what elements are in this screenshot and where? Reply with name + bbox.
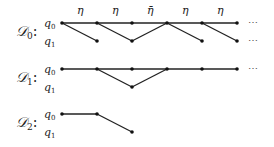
d2-label: 𝒟2: <box>16 114 37 132</box>
d0-ellipsis-q0: ⋯ <box>248 17 258 28</box>
d2-nodes <box>60 112 134 134</box>
d2-edges <box>62 114 132 132</box>
d2-row-q0: q0 <box>44 108 56 122</box>
d0-edge-label-4: η <box>182 4 189 17</box>
d0-row-q0: q0 <box>44 17 56 31</box>
d1-row-q1: q1 <box>44 81 56 95</box>
d0-row-q1: q1 <box>44 35 56 49</box>
d0-ellipsis-q1: ⋯ <box>248 35 258 46</box>
d0-edge-label-3: η̄ <box>147 4 154 17</box>
d1-ellipsis: ⋯ <box>248 63 258 74</box>
d2-row-q1: q1 <box>44 126 56 140</box>
diagram-d2: 𝒟2: q0 q1 <box>16 108 134 140</box>
diagram-d0: 𝒟0: q0 q1 η η η̄ η η ⋯ ⋯ <box>16 4 258 49</box>
d0-edges <box>62 23 237 41</box>
d1-edges <box>62 69 237 87</box>
d0-edge-label-2: η <box>112 4 119 17</box>
d1-label: 𝒟1: <box>16 69 37 87</box>
diagram-canvas: 𝒟0: q0 q1 η η η̄ η η ⋯ ⋯ 𝒟1: q0 q1 <box>0 0 274 147</box>
d0-edge-label-1: η <box>77 4 84 17</box>
d0-label: 𝒟0: <box>16 23 37 41</box>
d1-row-q0: q0 <box>44 63 56 77</box>
diagram-d1: 𝒟1: q0 q1 ⋯ <box>16 63 258 95</box>
d0-edge-label-5: η <box>217 4 224 17</box>
